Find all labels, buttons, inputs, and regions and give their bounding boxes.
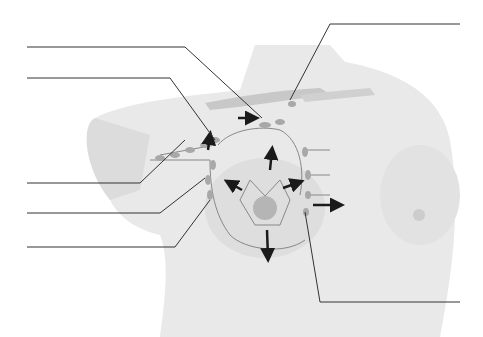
breast-lymphatic-diagram xyxy=(0,0,483,337)
anatomy-illustration xyxy=(0,0,483,337)
areola xyxy=(253,196,277,220)
other-breast xyxy=(380,145,460,245)
